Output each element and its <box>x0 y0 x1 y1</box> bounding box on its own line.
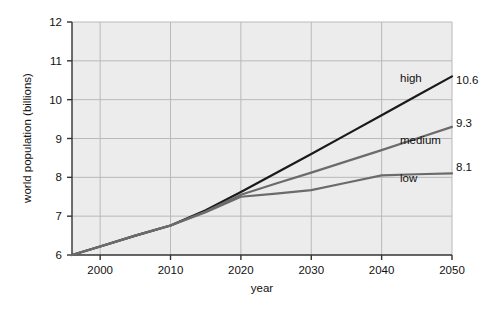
x-tick-label: 2040 <box>369 264 395 276</box>
y-axis-title: world population (billions) <box>21 73 33 204</box>
high-label: high <box>400 72 422 84</box>
x-tick-label: 2000 <box>87 264 113 276</box>
population-projection-chart: 6789101112 200020102020203020402050 high… <box>0 0 490 309</box>
high-end-value: 10.6 <box>456 74 478 86</box>
low-end-value: 8.1 <box>456 161 472 173</box>
x-tick-label: 2050 <box>439 264 465 276</box>
y-axis-ticks <box>67 22 72 255</box>
chart-svg: 6789101112 200020102020203020402050 high… <box>0 0 490 309</box>
x-axis-title: year <box>251 282 274 294</box>
medium-label: medium <box>400 134 441 146</box>
y-tick-label: 8 <box>56 171 62 183</box>
y-tick-label: 10 <box>49 94 62 106</box>
x-tick-label: 2030 <box>298 264 324 276</box>
low-label: low <box>400 172 418 184</box>
y-tick-label: 12 <box>49 16 62 28</box>
y-tick-label: 11 <box>50 55 62 67</box>
x-axis-tick-labels: 200020102020203020402050 <box>87 264 464 276</box>
y-tick-label: 9 <box>56 133 62 145</box>
x-tick-label: 2020 <box>228 264 254 276</box>
y-tick-label: 7 <box>56 210 62 222</box>
x-tick-label: 2010 <box>158 264 184 276</box>
y-tick-label: 6 <box>56 249 62 261</box>
y-axis-tick-labels: 6789101112 <box>49 16 62 261</box>
x-axis-ticks <box>100 255 452 260</box>
medium-end-value: 9.3 <box>456 117 472 129</box>
